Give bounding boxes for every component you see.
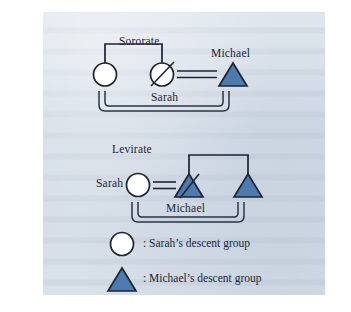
kinship-diagram-artboard: .ink { stroke: #1c2436; fill: none; } .i… [43, 12, 325, 295]
sororate-title: Sororate [119, 35, 160, 47]
sororate-marriage-link [177, 71, 217, 78]
node-sister-circle [94, 63, 117, 86]
sororate-michael-label: Michael [211, 47, 250, 59]
node-sarah-deceased-circle [151, 62, 175, 86]
levirate-michael-label: Michael [166, 202, 205, 214]
legend-item-michael: : Michael’s descent group [143, 272, 261, 284]
node-michael-deceased-triangle [175, 174, 203, 198]
legend-item-sarah: : Sarah’s descent group [143, 237, 250, 249]
sororate-sarah-label: Sarah [151, 91, 178, 103]
levirate-title: Levirate [112, 143, 152, 155]
node-michael-triangle [219, 63, 247, 86]
node-brother-triangle [234, 174, 262, 197]
figure-page: .ink { stroke: #1c2436; fill: none; } .i… [0, 0, 351, 312]
levirate-sarah-label: Sarah [96, 177, 123, 189]
legend-symbols [108, 233, 136, 292]
figure-panel: .ink { stroke: #1c2436; fill: none; } .i… [43, 12, 325, 295]
node-sarah-circle [127, 174, 150, 197]
levirate-marriage-link [153, 182, 176, 189]
legend-triangle-icon [108, 268, 136, 291]
legend-circle-icon [111, 233, 134, 256]
levirate-sibling-link [189, 155, 248, 174]
